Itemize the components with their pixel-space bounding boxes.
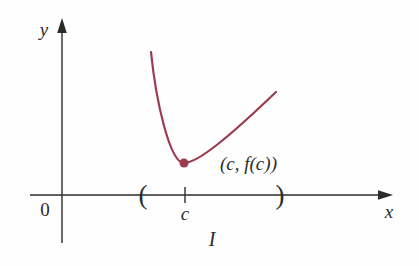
origin-label: 0 [40,199,50,220]
figure-canvas: y x 0 ( ) c I (c, f(c)) [0,0,419,266]
interval-open-paren: ( [139,180,148,210]
c-label: c [181,203,190,224]
x-axis-arrow-icon [378,190,393,200]
minimum-point-dot [180,159,189,168]
function-curve [151,52,276,163]
y-axis-label: y [38,19,49,40]
interval-close-paren: ) [276,180,285,210]
diagram-svg: y x 0 ( ) c I (c, f(c)) [0,0,419,266]
minimum-point-label: (c, f(c)) [220,153,277,175]
y-axis-arrow-icon [57,18,67,33]
interval-label: I [208,228,217,250]
x-axis-label: x [384,201,394,222]
